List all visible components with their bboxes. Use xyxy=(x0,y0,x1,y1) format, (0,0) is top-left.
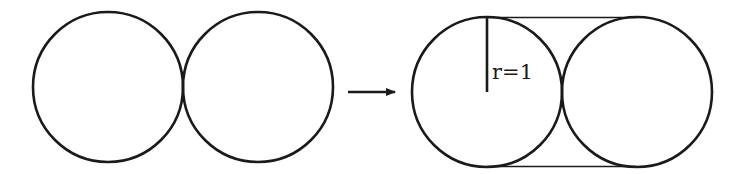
tangent-circles-diagram: r=1 xyxy=(0,0,740,174)
radius-label: r=1 xyxy=(492,60,533,84)
left-circle-1 xyxy=(33,12,183,162)
left-circle-pair xyxy=(33,12,333,162)
left-circle-2 xyxy=(183,12,333,162)
right-circle-pair-with-band: r=1 xyxy=(412,17,712,167)
right-circle-2 xyxy=(562,17,712,167)
